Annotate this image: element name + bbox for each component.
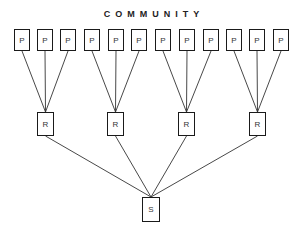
person-node: P: [14, 29, 30, 51]
connector-line: [151, 136, 187, 197]
person-node-label: P: [19, 36, 24, 45]
person-node-label: P: [208, 36, 213, 45]
person-node: P: [60, 29, 76, 51]
connector-line: [116, 51, 117, 112]
person-node: P: [179, 29, 195, 51]
person-node: P: [273, 29, 289, 51]
connector-line: [92, 51, 116, 112]
state-node: S: [142, 197, 160, 222]
representative-node-label: R: [43, 120, 49, 129]
person-node-label: P: [160, 36, 165, 45]
connector-line: [187, 51, 212, 112]
connector-line: [187, 51, 188, 112]
representative-node-label: R: [255, 120, 261, 129]
representative-node-label: R: [184, 120, 190, 129]
person-node-label: P: [89, 36, 94, 45]
representative-node: R: [178, 112, 195, 136]
person-node: P: [155, 29, 171, 51]
person-node-label: P: [278, 36, 283, 45]
connector-line: [257, 51, 258, 112]
person-node-label: P: [42, 36, 47, 45]
connector-line: [151, 136, 258, 197]
representative-node: R: [107, 112, 124, 136]
connector-line: [46, 136, 152, 197]
representative-node-label: R: [113, 120, 119, 129]
person-node-label: P: [231, 36, 236, 45]
person-node-label: P: [184, 36, 189, 45]
person-node: P: [249, 29, 265, 51]
connector-line: [46, 51, 69, 112]
connector-line: [45, 51, 46, 112]
connector-line: [116, 136, 152, 197]
person-node: P: [131, 29, 147, 51]
representative-node: R: [37, 112, 54, 136]
connector-line: [234, 51, 258, 112]
state-node-label: S: [148, 205, 153, 214]
person-node: P: [203, 29, 219, 51]
connector-line: [116, 51, 140, 112]
representative-node: R: [249, 112, 266, 136]
connector-line: [258, 51, 282, 112]
person-node: P: [108, 29, 124, 51]
person-node-label: P: [254, 36, 259, 45]
person-node-label: P: [113, 36, 118, 45]
connector-line: [22, 51, 46, 112]
person-node: P: [84, 29, 100, 51]
person-node: P: [37, 29, 53, 51]
person-node: P: [226, 29, 242, 51]
connector-line: [163, 51, 187, 112]
person-node-label: P: [65, 36, 70, 45]
person-node-label: P: [136, 36, 141, 45]
